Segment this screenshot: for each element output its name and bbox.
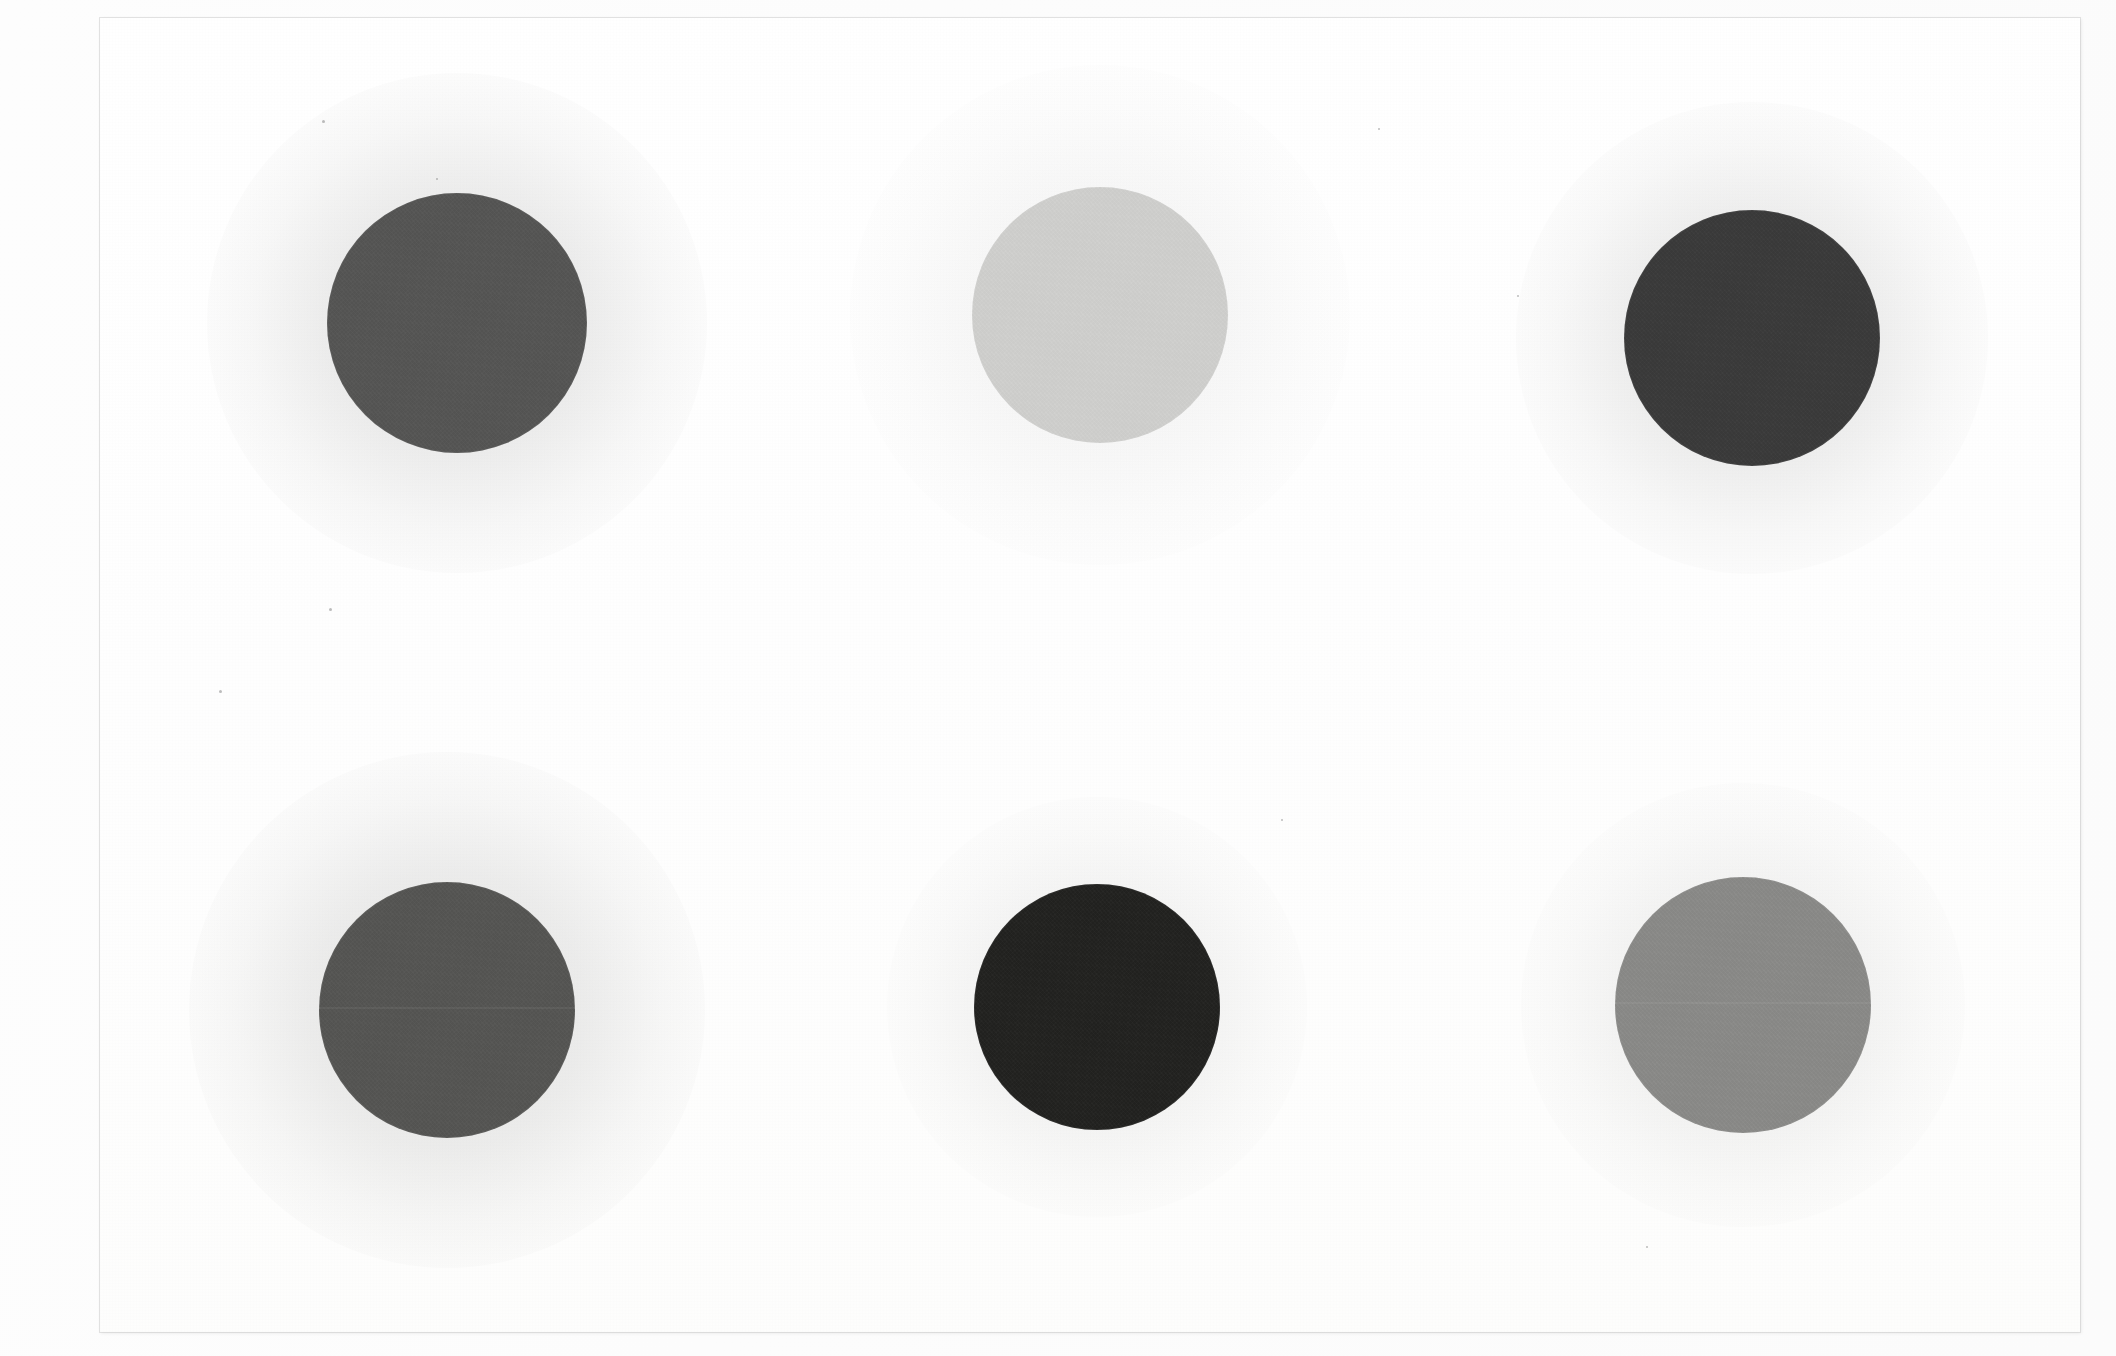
disc-rim-highlight bbox=[972, 187, 1228, 443]
disc-rim-highlight bbox=[1615, 877, 1871, 1133]
disc-paper-texture bbox=[327, 193, 587, 453]
disc-5-group bbox=[887, 797, 1307, 1217]
scan-canvas bbox=[0, 0, 2116, 1356]
disc-paper-texture bbox=[972, 187, 1228, 443]
gray-disc bbox=[1624, 210, 1880, 466]
disc-rim-highlight bbox=[1624, 210, 1880, 466]
disc-2-group bbox=[850, 65, 1350, 565]
disc-4-group bbox=[189, 752, 705, 1268]
disc-paper-texture bbox=[974, 884, 1220, 1130]
disc-paper-texture bbox=[1624, 210, 1880, 466]
disc-paper-texture bbox=[319, 882, 575, 1138]
gray-disc bbox=[319, 882, 575, 1138]
gray-disc bbox=[974, 884, 1220, 1130]
disc-3-group bbox=[1516, 102, 1988, 574]
disc-rim-highlight bbox=[319, 882, 575, 1138]
disc-6-group bbox=[1521, 783, 1965, 1227]
gray-disc bbox=[1615, 877, 1871, 1133]
disc-seam-line bbox=[1615, 1002, 1871, 1004]
disc-rim-highlight bbox=[974, 884, 1220, 1130]
gray-disc bbox=[972, 187, 1228, 443]
disc-rim-highlight bbox=[327, 193, 587, 453]
disc-seam-line bbox=[319, 1007, 575, 1009]
disc-paper-texture bbox=[1615, 877, 1871, 1133]
disc-1-group bbox=[207, 73, 707, 573]
gray-disc bbox=[327, 193, 587, 453]
